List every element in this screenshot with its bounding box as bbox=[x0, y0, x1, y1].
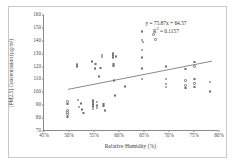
y-tick-label: 120 bbox=[33, 64, 41, 69]
y-tick-label: 130 bbox=[33, 51, 41, 56]
x-tick-label: 75% bbox=[189, 133, 199, 138]
y-tick-label: 100 bbox=[33, 90, 41, 95]
x-axis-title: Relative Humidity (%) bbox=[43, 144, 218, 150]
y-tick-label: 90 bbox=[36, 103, 41, 108]
y-tick-label: 150 bbox=[33, 25, 41, 30]
y-tick-label: 160 bbox=[33, 12, 41, 17]
chart-figure: [PM2.5] Concentration (µg/m³) 7080901001… bbox=[0, 0, 236, 166]
y-axis-title: [PM2.5] Concentration (µg/m³) bbox=[9, 39, 14, 107]
r-squared-label: R2 = 0.1157 bbox=[126, 27, 206, 35]
x-tick-label: 65% bbox=[139, 133, 149, 138]
x-tick-label: 45% bbox=[39, 133, 49, 138]
x-tick-label: 50% bbox=[64, 133, 74, 138]
x-tick-label: 60% bbox=[114, 133, 124, 138]
regression-annotation: y = 75.87x + 64.57 R2 = 0.1157 bbox=[126, 19, 206, 35]
y-tick-label: 110 bbox=[33, 77, 41, 82]
x-tick-label: 80% bbox=[214, 133, 224, 138]
regression-equation: y = 75.87x + 64.57 bbox=[126, 19, 206, 27]
x-tick-label: 70% bbox=[164, 133, 174, 138]
y-tick-label: 140 bbox=[33, 38, 41, 43]
y-tick-label: 80 bbox=[36, 116, 41, 121]
x-tick-label: 55% bbox=[89, 133, 99, 138]
